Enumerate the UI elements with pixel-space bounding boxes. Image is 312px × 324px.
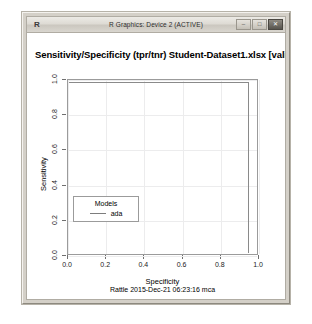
legend-box: Models ada xyxy=(73,196,139,222)
gridline-horizontal xyxy=(68,80,257,81)
x-axis-tick-label: 0.4 xyxy=(139,261,149,268)
window-controls: – □ ✕ xyxy=(236,19,283,30)
gridline-vertical xyxy=(68,80,69,254)
x-axis-tick-label: 0.6 xyxy=(177,261,187,268)
x-axis-tick xyxy=(258,255,259,259)
graphics-canvas: Sensitivity/Specificity (tpr/tnr) Studen… xyxy=(26,33,286,300)
y-axis-tick xyxy=(62,114,66,115)
y-axis-tick xyxy=(62,220,66,221)
legend-item: ada xyxy=(74,210,138,217)
plot-title: Sensitivity/Specificity (tpr/tnr) Studen… xyxy=(35,49,286,60)
y-axis-tick xyxy=(62,79,66,80)
plot-frame xyxy=(67,79,258,255)
gridline-vertical xyxy=(106,80,107,254)
legend-line-swatch xyxy=(90,213,106,214)
x-axis-tick-label: 0.8 xyxy=(215,261,225,268)
y-axis-tick-label: 0.2 xyxy=(51,212,58,228)
minimize-icon: – xyxy=(237,20,250,29)
r-logo-icon: R xyxy=(29,17,45,32)
gridline-horizontal xyxy=(68,115,257,116)
screenshot-root: R R Graphics: Device 2 (ACTIVE) – □ ✕ Se… xyxy=(0,0,312,324)
x-axis-tick-label: 0.0 xyxy=(62,261,72,268)
window-titlebar[interactable]: R R Graphics: Device 2 (ACTIVE) – □ ✕ xyxy=(26,16,286,33)
y-axis-tick-label: 0.6 xyxy=(51,141,58,157)
close-button[interactable]: ✕ xyxy=(268,19,283,30)
plot-footer-note: Rattle 2015-Dec-21 06:23:16 mca xyxy=(67,286,258,293)
roc-curve-top-segment xyxy=(69,82,249,83)
y-axis-tick xyxy=(62,255,66,256)
gridline-horizontal xyxy=(68,256,257,257)
y-axis-tick xyxy=(62,149,66,150)
maximize-icon: □ xyxy=(253,20,266,29)
minimize-button[interactable]: – xyxy=(236,19,251,30)
y-axis-tick-label: 0.0 xyxy=(51,247,58,263)
y-axis-title: Sensitivity xyxy=(39,157,48,191)
gridline-vertical xyxy=(144,80,145,254)
legend-item-label: ada xyxy=(111,210,123,217)
x-axis-tick-label: 1.0 xyxy=(253,261,263,268)
r-graphics-window: R R Graphics: Device 2 (ACTIVE) – □ ✕ Se… xyxy=(22,12,290,304)
y-axis-tick-label: 0.8 xyxy=(51,106,58,122)
x-axis-tick-label: 0.2 xyxy=(100,261,110,268)
legend-title: Models xyxy=(74,200,138,207)
gridline-horizontal xyxy=(68,150,257,151)
y-axis-tick xyxy=(62,185,66,186)
roc-curve-drop-segment xyxy=(248,82,249,253)
gridline-horizontal xyxy=(68,186,257,187)
y-axis-tick-label: 1.0 xyxy=(51,71,58,87)
gridline-vertical xyxy=(221,80,222,254)
window-inner: R R Graphics: Device 2 (ACTIVE) – □ ✕ Se… xyxy=(26,16,286,300)
gridline-vertical xyxy=(183,80,184,254)
gridline-vertical xyxy=(259,80,260,254)
maximize-button[interactable]: □ xyxy=(252,19,267,30)
x-axis-title: Specificity xyxy=(67,277,258,286)
close-icon: ✕ xyxy=(269,20,282,29)
y-axis-tick-label: 0.4 xyxy=(51,177,58,193)
